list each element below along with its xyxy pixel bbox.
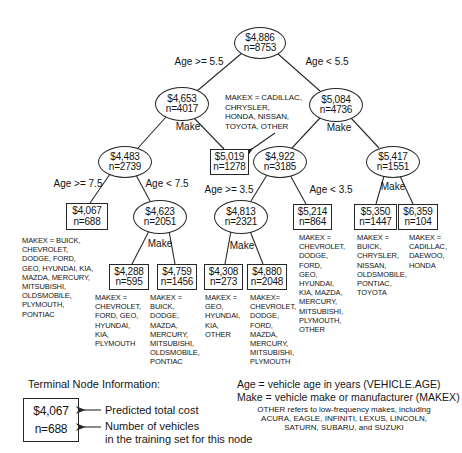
tree-leaf-4288: $4,288 n=595: [109, 264, 149, 290]
node-count: n=8753: [244, 43, 276, 54]
branch-label-age-lt-3-5: Age < 3.5: [309, 184, 352, 195]
make-list-6359: MAKEX = CADILLAC, DAEWOO, HONDA: [409, 233, 447, 270]
node-count: n=4736: [320, 105, 352, 116]
tree-node-root: $4,886 n=8753: [234, 27, 286, 59]
tree-node-age-ge-5-5: $4,653 n=4017: [155, 87, 209, 121]
tree-leaf-4308: $4,308 n=273: [204, 264, 243, 290]
node-value: $4,067: [72, 206, 101, 217]
legend-caption-value: Predicted total cost: [105, 404, 199, 417]
node-count: n=1551: [377, 162, 409, 173]
node-count: n=1278: [213, 162, 245, 173]
node-count: n=2051: [144, 217, 176, 228]
make-list-4880: MAKEX= CHEVROLET, DODGE, FORD, MAZDA, ME…: [250, 293, 296, 367]
split-label-make-5: Make: [230, 240, 254, 251]
definition-age: Age = vehicle age in years (VEHICLE.AGE): [237, 378, 440, 390]
tree-node-make-mid: $4,813 n=2321: [214, 200, 268, 234]
tree-leaf-5214: $5,214 n=864: [293, 204, 332, 230]
make-list-4308: MAKEX = GEO, HYUNDAI, KIA, OTHER: [205, 293, 240, 339]
branch-label-age-lt-7-5: Age < 7.5: [145, 178, 188, 189]
node-count: n=1456: [161, 277, 193, 288]
tree-leaf-4759: $4,759 n=1456: [157, 264, 197, 290]
node-count: n=104: [404, 217, 431, 228]
tree-node-make-left: $4,623 n=2051: [133, 200, 187, 234]
node-count: n=595: [115, 277, 142, 288]
decision-tree-figure: $4,886 n=8753 $4,653 n=4017 $5,084 n=473…: [0, 0, 462, 453]
make-list-4067: MAKEX = BUICK, CHEVROLET, DODGE, FORD, G…: [22, 236, 93, 319]
split-label-make-4: Make: [148, 238, 172, 249]
annotation-makex-cadillac: MAKEX = CADILLAC, CHRYSLER, HONDA, NISSA…: [225, 93, 302, 131]
branch-label-age-ge-3-5: Age >= 3.5: [205, 184, 254, 195]
tree-node-age-ge-3-5: $4,922 n=3185: [253, 146, 307, 178]
node-count: n=1447: [359, 217, 391, 228]
tree-leaf-5350: $5,350 n=1447: [354, 204, 397, 230]
branch-label-age-ge-5-5: Age >= 5.5: [175, 56, 224, 67]
definition-make: Make = vehicle make or manufacturer (MAK…: [237, 391, 460, 403]
tree-node-age-lt-5-5: $5,084 n=4736: [309, 88, 363, 122]
tree-node-age-ge-7-5: $4,483 n=2739: [98, 146, 152, 178]
split-label-make-3: Make: [381, 181, 405, 192]
node-count: n=4017: [166, 104, 198, 115]
node-count: n=2739: [109, 162, 141, 173]
node-count: n=3185: [264, 162, 296, 173]
node-count: n=2321: [225, 217, 257, 228]
legend-example-node: $4,067 n=688: [23, 398, 79, 442]
tree-leaf-5019: $5,019 n=1278: [210, 149, 249, 175]
legend-caption-count: Number of vehicles in the training set f…: [105, 420, 252, 446]
make-list-4759: MAKEX = BUICK, DODGE, MAZDA, MERCURY, MI…: [150, 293, 200, 367]
node-count: n=2048: [251, 277, 283, 288]
tree-leaf-4880: $4,880 n=2048: [247, 264, 287, 290]
make-list-5350: MAKEX = BUICK, CHRYSLER, NISSAN, OLDSMOB…: [357, 233, 407, 297]
legend-example-count: n=688: [35, 422, 68, 436]
make-list-4288: MAKEX = CHEVROLET, FORD, GEO, HYUNDAI, K…: [95, 293, 141, 348]
branch-label-age-ge-7-5: Age >= 7.5: [54, 178, 103, 189]
split-label-make-1: Make: [176, 121, 200, 132]
legend-example-value: $4,067: [33, 404, 69, 418]
tree-leaf-4067: $4,067 n=688: [66, 203, 108, 230]
node-count: n=688: [73, 217, 100, 228]
make-list-5214: MAKEX = CHEVROLET, DODGE, FORD, GEO, HYU…: [299, 233, 345, 334]
tree-leaf-6359: $6,359 n=104: [398, 204, 438, 230]
node-count: n=864: [299, 217, 326, 228]
branch-label-age-lt-5-5: Age < 5.5: [305, 56, 348, 67]
split-label-make-2: Make: [327, 122, 351, 133]
tree-node-age-lt-3-5-make: $5,417 n=1551: [366, 146, 420, 178]
other-makes-note: OTHER refers to low-frequency makes, inc…: [256, 406, 432, 432]
legend-title: Terminal Node Information:: [28, 378, 160, 390]
node-count: n=273: [210, 277, 237, 288]
